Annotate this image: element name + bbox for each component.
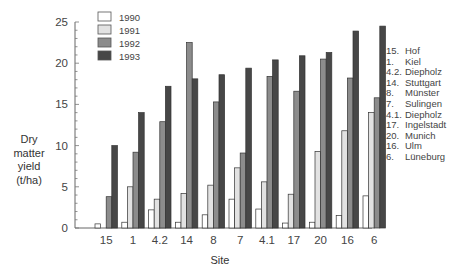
bar-1990-site-16 [336,216,342,228]
x-tick-label: 20 [314,234,327,246]
bar-1993-site-14 [192,79,198,228]
bar-1992-site-14 [187,43,193,228]
bar-1993-site-7 [246,68,252,228]
y-tick-label: 20 [55,57,68,69]
bar-1991-site-16 [342,131,348,228]
bar-1990-site-20 [309,222,315,228]
site-key-item: 6.Lüneburg [386,152,446,163]
x-tick-label: 4.2 [152,234,168,246]
bar-1992-site-8 [213,102,219,228]
site-key-name: Sulingen [405,99,442,110]
bar-1990-site-6 [363,196,369,228]
x-tick-label: 1 [130,234,136,246]
x-tick-label: 17 [287,234,300,246]
y-axis-label: matter [13,147,45,159]
bar-1990-site-7 [229,199,235,228]
bar-1990-site-8 [202,215,208,228]
x-tick-label: 6 [371,234,377,246]
site-key-item: 7.Sulingen [386,99,446,110]
bar-1992-site-4.1 [267,76,273,228]
site-key-number: 7. [386,99,405,110]
legend-label-1991: 1991 [119,25,140,36]
bar-1993-site-20 [326,52,332,228]
site-key-name: Hof [405,46,420,57]
bar-1993-site-4.2 [165,86,171,228]
bar-1991-site-17 [288,194,294,228]
bar-1990-site-14 [175,222,181,228]
bar-1993-site-17 [299,56,305,228]
legend-label-1990: 1990 [119,12,140,23]
y-axis-label: Dry [20,133,38,145]
x-axis-label: Site [211,254,230,266]
y-tick-label: 10 [55,140,68,152]
bar-1992-site-20 [321,59,327,228]
bar-1991-site-4.2 [154,199,160,228]
bar-1992-site-16 [347,78,353,228]
x-tick-label: 14 [180,234,193,246]
bar-1993-site-15 [112,146,118,228]
bar-1993-site-4.1 [273,60,279,228]
bar-1990-site-4.2 [149,210,155,228]
bar-1991-site-4.1 [261,182,267,228]
bar-1992-site-4.2 [160,122,166,228]
site-key-name: Lüneburg [405,152,445,163]
y-tick-label: 15 [55,98,68,110]
y-axis-label: (t/ha) [16,174,42,186]
x-tick-label: 16 [341,234,354,246]
bar-1991-site-14 [181,193,187,228]
bar-1990-site-1 [122,222,128,228]
bar-1992-site-1 [133,152,139,228]
legend-swatch-1991 [98,25,111,34]
y-tick-label: 0 [62,222,68,234]
legend-label-1992: 1992 [119,38,140,49]
legend-label-1993: 1993 [119,51,140,62]
x-tick-label: 7 [237,234,243,246]
bar-1991-site-8 [208,185,214,228]
bar-1991-site-1 [127,187,133,228]
bar-1993-site-16 [353,31,359,228]
bar-1992-site-6 [374,98,380,228]
bar-1990-site-17 [283,223,289,228]
y-tick-label: 25 [55,16,68,28]
legend-swatch-1992 [98,38,111,47]
bar-1992-site-17 [294,91,300,228]
site-key-number: 15. [386,46,405,57]
site-key-item: 15.Hof [386,46,446,57]
bar-1993-site-1 [139,113,145,228]
bar-1991-site-6 [369,113,375,228]
bar-1990-site-4.1 [256,209,262,228]
bar-1991-site-20 [315,151,321,228]
bar-1993-site-6 [380,26,386,228]
bar-1990-site-15 [95,224,101,228]
bar-1992-site-7 [240,153,246,228]
bar-1992-site-15 [106,197,112,228]
site-key-number: 6. [386,152,405,163]
legend-swatch-1990 [98,12,111,21]
legend-swatch-1993 [98,51,111,60]
site-key-list: 15.Hof1.Kiel4.2.Diepholz14.Stuttgart8.Mü… [386,46,446,163]
bar-1991-site-7 [235,168,241,228]
x-tick-label: 4.1 [259,234,275,246]
x-tick-label: 8 [210,234,216,246]
x-tick-label: 15 [100,234,113,246]
bar-1993-site-8 [219,75,225,228]
y-axis-label: yield [18,160,41,172]
y-tick-label: 5 [62,181,68,193]
